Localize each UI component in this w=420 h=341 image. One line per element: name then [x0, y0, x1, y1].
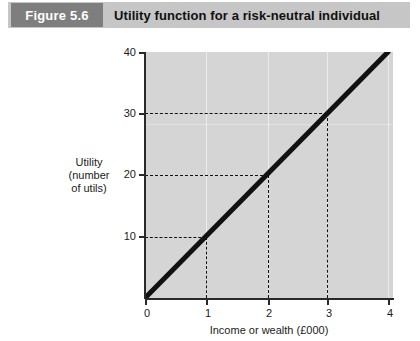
x-tick-4 [388, 299, 390, 305]
utility-function-line [145, 52, 393, 298]
y-axis [144, 52, 146, 299]
y-tick-10 [139, 236, 145, 238]
x-axis-title: Income or wealth (£000) [145, 324, 393, 336]
x-tick-label-1: 1 [196, 307, 220, 319]
chart-figure: 40 30 20 10 0 1 2 3 4 Utility (number of… [0, 28, 420, 341]
x-tick-2 [268, 299, 270, 305]
plot-area [145, 52, 393, 298]
figure-number-badge: Figure 5.6 [11, 3, 103, 27]
y-axis-title-line-1: Utility [52, 156, 126, 169]
x-tick-0 [145, 299, 147, 305]
x-tick-label-4: 4 [378, 307, 402, 319]
y-label-40-wrap: 40 [100, 46, 136, 58]
y-tick-20 [139, 174, 145, 176]
x-tick-3 [327, 299, 329, 305]
y-axis-title-line-2: (number [52, 169, 126, 182]
y-tick-40 [139, 52, 145, 54]
x-tick-label-3: 3 [317, 307, 341, 319]
x-tick-1 [206, 299, 208, 305]
y-label-10-wrap: 10 [100, 230, 136, 242]
x-tick-label-0: 0 [135, 307, 159, 319]
y-axis-title: Utility (number of utils) [52, 156, 126, 195]
y-tick-label-40: 40 [106, 46, 136, 58]
figure-header: Figure 5.6 Utility function for a risk-n… [8, 2, 410, 28]
x-axis [145, 298, 394, 300]
y-tick-30 [139, 113, 145, 115]
figure-title: Utility function for a risk-neutral indi… [114, 8, 380, 23]
y-axis-title-line-3: of utils) [52, 182, 126, 195]
y-label-30-wrap: 30 [100, 107, 136, 119]
y-tick-label-10: 10 [106, 230, 136, 242]
y-tick-label-30: 30 [106, 107, 136, 119]
x-tick-label-2: 2 [257, 307, 281, 319]
